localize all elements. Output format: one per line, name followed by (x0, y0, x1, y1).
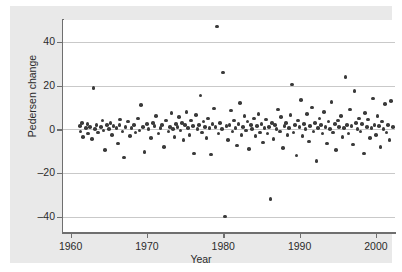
data-point (258, 131, 262, 135)
data-point (249, 123, 253, 127)
data-point (192, 152, 196, 156)
data-point (312, 130, 316, 134)
data-point (200, 131, 204, 135)
data-point (354, 121, 358, 125)
data-point (191, 124, 195, 128)
data-point (334, 148, 338, 152)
x-tick-mark (300, 233, 301, 238)
data-point (139, 103, 143, 107)
x-tick-label: 1960 (41, 240, 101, 253)
data-point (237, 122, 241, 126)
data-point (186, 126, 190, 130)
data-point (247, 147, 251, 151)
data-point (143, 150, 147, 154)
data-point (79, 130, 83, 134)
y-axis-label: Pedersen change (26, 36, 38, 156)
data-point (310, 106, 314, 110)
data-point (122, 156, 126, 160)
data-point (220, 127, 224, 131)
data-point (203, 125, 207, 129)
data-point (154, 114, 158, 118)
data-point (145, 122, 149, 126)
data-point (389, 99, 393, 103)
data-point (141, 125, 145, 129)
data-point (95, 123, 99, 127)
data-point (231, 130, 235, 134)
data-point (118, 118, 122, 122)
y-tick: –20 (10, 167, 55, 178)
data-point (244, 129, 248, 133)
data-point (290, 83, 294, 87)
data-point (212, 107, 216, 111)
data-point (136, 117, 140, 121)
x-tick: 1980 (193, 240, 253, 253)
plot-area (63, 20, 395, 232)
data-point (101, 119, 105, 123)
data-point (261, 141, 265, 145)
gridline (63, 86, 395, 87)
data-point (289, 113, 293, 117)
data-point (313, 121, 317, 125)
data-point (167, 130, 171, 134)
data-point (342, 126, 346, 130)
y-tick-label: 0 (49, 124, 55, 135)
data-point (305, 112, 309, 116)
data-point (376, 114, 380, 118)
data-point (299, 98, 303, 102)
data-point (202, 120, 206, 124)
data-point (134, 131, 138, 135)
data-point (341, 135, 345, 139)
data-point (327, 120, 331, 124)
data-point (267, 125, 271, 129)
data-point (357, 117, 361, 121)
x-tick-label: 1970 (117, 240, 177, 253)
data-point (363, 111, 367, 115)
data-point (379, 145, 383, 149)
x-tick-mark (71, 233, 72, 238)
data-point (351, 143, 355, 147)
data-point (215, 25, 219, 29)
data-point (269, 197, 273, 201)
data-point (164, 119, 168, 123)
data-point (232, 119, 236, 123)
data-point (235, 144, 239, 148)
data-point (223, 215, 227, 219)
x-tick-label: 1990 (270, 240, 330, 253)
data-point (330, 100, 334, 104)
data-point (383, 102, 387, 106)
data-point (173, 135, 177, 139)
data-point (160, 123, 164, 127)
data-point (110, 133, 114, 137)
data-point (92, 86, 96, 90)
data-point (315, 159, 319, 163)
data-point (284, 121, 288, 125)
data-point (118, 123, 122, 127)
data-point (229, 109, 233, 113)
data-point (321, 132, 325, 136)
data-point (295, 154, 299, 158)
data-point (107, 127, 111, 131)
data-point (278, 130, 282, 134)
data-point (296, 119, 300, 123)
data-point (90, 137, 94, 141)
data-point (116, 142, 120, 146)
data-point (366, 118, 370, 122)
data-point (86, 132, 90, 136)
data-point (337, 125, 341, 129)
data-point (171, 127, 175, 131)
data-point (385, 131, 389, 135)
data-point (257, 112, 261, 116)
x-tick-label: 1980 (193, 240, 253, 253)
data-point (302, 122, 306, 126)
data-point (322, 110, 326, 114)
data-point (287, 126, 291, 130)
data-point (147, 127, 151, 131)
data-point (388, 138, 392, 142)
data-point (371, 97, 375, 101)
data-point (347, 132, 351, 136)
x-tick: 1990 (270, 240, 330, 253)
data-point (170, 111, 174, 115)
y-tick-mark (57, 217, 62, 218)
data-point (359, 130, 363, 134)
data-point (292, 131, 296, 135)
